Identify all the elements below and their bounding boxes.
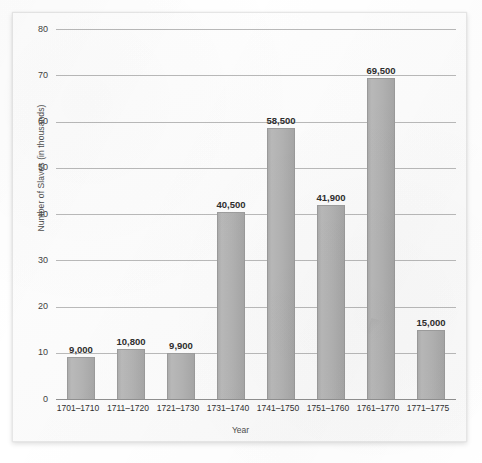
y-axis-tick-label: 10 <box>22 348 48 357</box>
bar[interactable] <box>67 357 95 399</box>
y-axis-tick-label: 0 <box>22 395 48 404</box>
bar[interactable] <box>217 212 245 399</box>
x-axis-tick-label: 1751–1760 <box>300 403 356 413</box>
bar[interactable] <box>417 330 445 399</box>
x-axis-title: Year <box>13 425 468 435</box>
bar-series: 9,00010,8009,90040,50058,50041,90069,500… <box>56 29 456 399</box>
bar[interactable] <box>117 349 145 399</box>
bar-value-label: 15,000 <box>394 317 468 328</box>
bar-slot: 58,500 <box>256 29 306 399</box>
x-axis-tick-label: 1761–1770 <box>350 403 406 413</box>
chart-card: Number of Slaves (in thousands) 80706050… <box>12 12 467 442</box>
x-axis-tick-label: 1711–1720 <box>100 403 156 413</box>
x-axis-tick-label: 1701–1710 <box>50 403 106 413</box>
x-axis-tick-label: 1721–1730 <box>150 403 206 413</box>
scanned-page: Number of Slaves (in thousands) 80706050… <box>0 0 482 463</box>
bar[interactable] <box>367 78 395 399</box>
y-axis-tick-label: 80 <box>22 25 48 34</box>
bar-slot: 40,500 <box>206 29 256 399</box>
x-axis-tick-labels: 1701–17101711–17201721–17301731–17401741… <box>56 403 456 419</box>
bar-slot: 15,000 <box>406 29 456 399</box>
bar[interactable] <box>317 205 345 399</box>
y-axis-tick-label: 20 <box>22 302 48 311</box>
bar-slot: 9,900 <box>156 29 206 399</box>
x-axis-tick-label: 1731–1740 <box>200 403 256 413</box>
x-axis-tick-label: 1771–1775 <box>400 403 456 413</box>
bar-slot: 69,500 <box>356 29 406 399</box>
bar-slot: 41,900 <box>306 29 356 399</box>
gridline <box>56 399 456 400</box>
bar[interactable] <box>167 353 195 399</box>
y-axis-title: Number of Slaves (in thousands) <box>36 78 46 258</box>
bar[interactable] <box>267 128 295 399</box>
x-axis-tick-label: 1741–1750 <box>250 403 306 413</box>
plot-area: 80706050403020100 9,00010,8009,90040,500… <box>56 29 456 399</box>
